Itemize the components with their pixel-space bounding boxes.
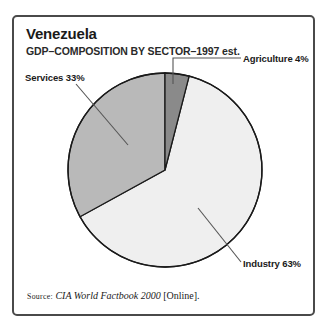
source-publication: CIA World Factbook 2000 <box>55 290 160 301</box>
pie-chart <box>0 0 330 333</box>
pie-label-services: Services 33% <box>25 72 85 83</box>
source-note: Source: CIA World Factbook 2000 [Online]… <box>27 290 200 301</box>
source-keyword: Source: <box>27 292 53 301</box>
source-suffix: [Online]. <box>163 290 199 301</box>
pie-label-industry: Industry 63% <box>243 258 301 269</box>
figure-panel: Venezuela GDP–COMPOSITION BY SECTOR–1997… <box>0 0 330 333</box>
pie-label-agriculture: Agriculture 4% <box>243 53 309 64</box>
